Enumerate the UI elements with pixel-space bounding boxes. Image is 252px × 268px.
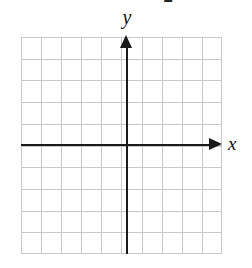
y-axis-label: y	[115, 6, 139, 28]
cropped-top-glyph: 2	[158, 0, 180, 3]
arrow-right-icon	[209, 138, 222, 150]
arrow-up-icon	[120, 35, 132, 48]
x-axis-line	[21, 144, 211, 146]
coordinate-plane-figure: 2 y x	[0, 0, 252, 268]
x-axis-label: x	[228, 133, 248, 155]
y-axis-line	[126, 47, 128, 254]
